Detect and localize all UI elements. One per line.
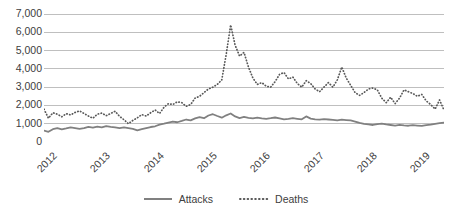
- y-axis-tick-label: 3,000: [16, 81, 42, 91]
- gridlines: [44, 14, 444, 124]
- series-line-attacks: [44, 113, 444, 131]
- x-axis-tick-label: 2015: [195, 150, 219, 174]
- y-axis-tick-label: 1,000: [16, 118, 42, 128]
- y-axis: 7,0006,0005,0004,0003,0002,0001,0000: [0, 0, 42, 214]
- legend-swatch-attacks: [143, 194, 173, 204]
- legend-label-attacks: Attacks: [179, 193, 213, 205]
- chart-container: 7,0006,0005,0004,0003,0002,0001,0000 201…: [0, 0, 451, 214]
- x-axis: 20122013201420152016201720182019: [44, 144, 444, 184]
- y-axis-tick-label: 4,000: [16, 63, 42, 73]
- legend-label-deaths: Deaths: [275, 193, 308, 205]
- legend-swatch-deaths: [239, 194, 269, 204]
- plot-svg: [44, 14, 444, 142]
- x-axis-tick-label: 2019: [408, 150, 432, 174]
- chart-legend: Attacks Deaths: [0, 188, 451, 210]
- x-axis-tick-label: 2016: [248, 150, 272, 174]
- legend-item-attacks: Attacks: [143, 193, 213, 205]
- x-axis-tick-label: 2018: [355, 150, 379, 174]
- plot-area: [44, 14, 444, 142]
- y-axis-tick-label: 2,000: [16, 99, 42, 109]
- y-axis-tick-label: 5,000: [16, 45, 42, 55]
- y-axis-tick-label: 0: [36, 136, 42, 146]
- x-axis-tick-label: 2013: [88, 150, 112, 174]
- legend-item-deaths: Deaths: [239, 193, 308, 205]
- x-axis-tick-label: 2017: [301, 150, 325, 174]
- y-axis-tick-label: 7,000: [16, 8, 42, 18]
- series-line-deaths: [44, 25, 444, 124]
- x-axis-tick-label: 2014: [141, 150, 165, 174]
- data-series-layer: [44, 25, 444, 132]
- y-axis-tick-label: 6,000: [16, 26, 42, 36]
